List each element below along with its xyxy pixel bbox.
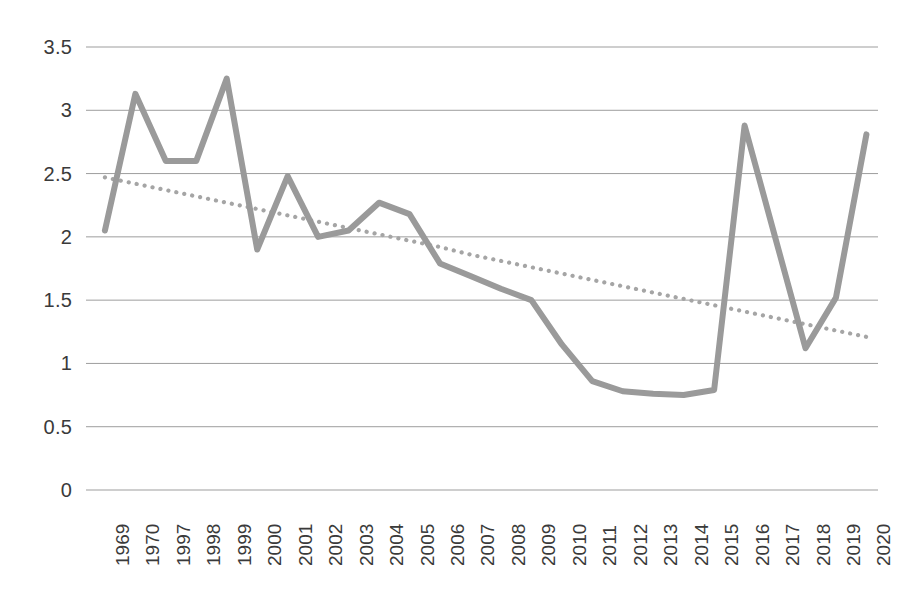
x-axis-tick-label: 2000	[264, 524, 286, 566]
x-axis-tick-label: 2007	[477, 524, 499, 566]
x-axis-tick-label: 2009	[538, 524, 560, 566]
x-axis-tick-label: 2013	[660, 524, 682, 566]
x-axis-tick-label: 2015	[721, 524, 743, 566]
x-axis-tick-label: 1997	[173, 524, 195, 566]
x-axis-tick-label: 2002	[325, 524, 347, 566]
x-axis-tick-label: 2012	[630, 524, 652, 566]
x-axis-tick-label: 2019	[843, 524, 865, 566]
x-axis-tick-label: 2017	[782, 524, 804, 566]
x-axis-tick-label: 2010	[569, 524, 591, 566]
x-axis-tick-label: 1999	[234, 524, 256, 566]
line-chart: 3.532.521.510.50 19691970199719981999200…	[0, 0, 921, 594]
x-axis-tick-label: 2003	[356, 524, 378, 566]
x-axis-tick-label: 2014	[691, 524, 713, 566]
x-axis-tick-label: 2018	[813, 524, 835, 566]
x-axis-tick-label: 2006	[447, 524, 469, 566]
x-axis-tick-label: 2011	[599, 525, 621, 566]
x-axis-tick-label: 1969	[112, 524, 134, 566]
x-axis-tick-label: 2016	[752, 524, 774, 566]
x-axis-tick-label: 2005	[417, 524, 439, 566]
x-axis-tick-label: 1998	[203, 524, 225, 566]
x-axis-tick-label: 2004	[386, 524, 408, 566]
x-axis-tick-label: 2008	[508, 524, 530, 566]
x-axis-tick-label: 2001	[295, 524, 317, 566]
x-axis-tick-label: 2020	[873, 524, 895, 566]
x-axis-tick-label: 1970	[142, 524, 164, 566]
x-axis: 1969197019971998199920002001200220032004…	[0, 0, 921, 594]
